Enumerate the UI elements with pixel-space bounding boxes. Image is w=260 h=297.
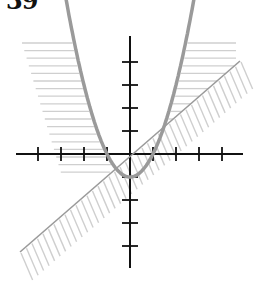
horizontal-hatch-left — [22, 43, 111, 172]
inequality-graph — [0, 0, 260, 297]
diagonal-hatch-band — [21, 62, 253, 280]
